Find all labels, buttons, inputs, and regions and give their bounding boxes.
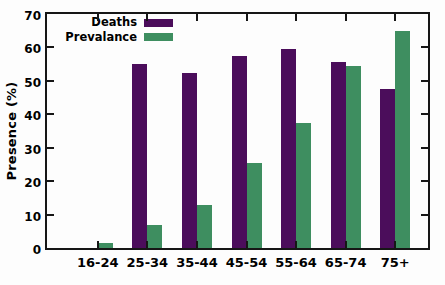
- bar-group-55-64: [271, 14, 321, 248]
- legend: DeathsPrevalance: [59, 17, 173, 43]
- bar-group-35-44: [172, 14, 222, 248]
- y-axis-tick-labels: 010203040506070: [0, 12, 41, 250]
- x-axis-tick: [246, 14, 248, 21]
- bar-prevalance-45-54: [247, 163, 262, 248]
- y-axis-tick: [421, 46, 428, 48]
- x-axis-category-label: 45-54: [226, 256, 268, 269]
- x-axis-tick: [146, 241, 148, 248]
- x-axis-category-label: 25-34: [127, 256, 169, 269]
- y-axis-tick: [47, 214, 54, 216]
- x-axis-tick: [295, 241, 297, 248]
- bar-prevalance-16-24: [98, 243, 113, 248]
- bar-prevalance-25-34: [147, 225, 162, 248]
- plot-area: DeathsPrevalance: [45, 12, 430, 250]
- y-axis-tick: [47, 180, 54, 182]
- bar-deaths-65-74: [331, 62, 346, 248]
- legend-row-deaths: Deaths: [59, 17, 173, 29]
- y-axis-tick: [47, 113, 54, 115]
- y-axis-tick-label: 60: [0, 43, 41, 55]
- bar-prevalance-55-64: [296, 123, 311, 248]
- x-axis-tick: [345, 241, 347, 248]
- y-axis-tick: [47, 147, 54, 149]
- y-axis-tick: [421, 80, 428, 82]
- y-axis-tick: [47, 46, 54, 48]
- bar-groups: [47, 14, 428, 248]
- x-axis-category-label: 35-44: [176, 256, 218, 269]
- bar-deaths-25-34: [132, 64, 147, 248]
- y-axis-tick: [421, 214, 428, 216]
- y-axis-tick-label: 70: [0, 10, 41, 22]
- x-axis-tick: [246, 241, 248, 248]
- x-axis-tick: [394, 241, 396, 248]
- y-axis-tick-label: 50: [0, 77, 41, 89]
- bar-prevalance-65-74: [346, 66, 361, 248]
- y-axis-tick: [47, 80, 54, 82]
- y-axis-tick-label: 0: [0, 244, 41, 256]
- legend-row-prevalance: Prevalance: [59, 32, 173, 44]
- bar-deaths-75plus: [380, 89, 395, 248]
- bar-group-16-24: [73, 14, 123, 248]
- x-axis-tick: [196, 14, 198, 21]
- chart: Presence (%) 010203040506070 DeathsPreva…: [0, 0, 445, 285]
- x-axis-category-label: 65-74: [325, 256, 367, 269]
- bar-deaths-35-44: [182, 73, 197, 249]
- legend-label-prevalance: Prevalance: [59, 32, 137, 44]
- bar-group-65-74: [321, 14, 371, 248]
- y-axis-tick-label: 20: [0, 177, 41, 189]
- y-axis-tick-label: 10: [0, 211, 41, 223]
- x-axis-tick: [146, 14, 148, 21]
- legend-swatch-prevalance: [144, 33, 173, 41]
- y-axis-tick: [421, 180, 428, 182]
- bar-group-45-54: [222, 14, 272, 248]
- bar-deaths-45-54: [232, 56, 247, 248]
- y-axis-tick-label: 30: [0, 144, 41, 156]
- x-axis-category-label: 75+: [381, 256, 410, 269]
- x-axis-tick: [394, 14, 396, 21]
- x-axis-tick: [295, 14, 297, 21]
- bar-prevalance-75plus: [395, 31, 410, 248]
- x-axis-tick: [97, 241, 99, 248]
- y-axis-tick: [421, 113, 428, 115]
- x-axis-category-label: 55-64: [275, 256, 317, 269]
- bar-group-75plus: [370, 14, 420, 248]
- bar-group-25-34: [123, 14, 173, 248]
- x-axis-tick: [345, 14, 347, 21]
- x-axis-tick: [196, 241, 198, 248]
- y-axis-tick-label: 40: [0, 110, 41, 122]
- x-axis-tick-labels: 16-2425-3435-4445-5455-6465-7475+: [45, 256, 430, 276]
- legend-swatch-deaths: [144, 19, 173, 27]
- bar-deaths-55-64: [281, 49, 296, 248]
- bar-prevalance-35-44: [197, 205, 212, 248]
- x-axis-tick: [97, 14, 99, 21]
- y-axis-tick: [421, 147, 428, 149]
- x-axis-category-label: 16-24: [77, 256, 119, 269]
